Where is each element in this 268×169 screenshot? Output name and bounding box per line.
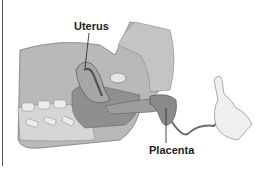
umbilical-cord <box>172 118 220 134</box>
illustration: Uterus Placenta <box>0 0 268 169</box>
uterus-label: Uterus <box>74 20 109 32</box>
hand-shape <box>214 76 252 140</box>
bladder <box>110 73 126 83</box>
anatomy-drawing <box>0 0 268 169</box>
placenta-label: Placenta <box>149 144 194 156</box>
